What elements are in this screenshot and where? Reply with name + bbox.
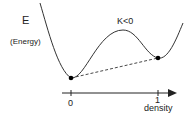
curve-label: K<0 [117, 16, 133, 26]
energy-density-diagram: E (Energy) K<0 0 1 density [0, 0, 191, 118]
y-axis-label: E [22, 14, 29, 26]
energy-curve [40, 3, 183, 78]
x-axis-arrow-icon [168, 89, 177, 97]
x-axis-label: density [144, 103, 173, 113]
tick-label-0: 0 [68, 98, 73, 108]
point-minimum-1 [156, 56, 161, 61]
point-minimum-0 [69, 76, 74, 81]
y-axis-sublabel: (Energy) [10, 37, 41, 46]
